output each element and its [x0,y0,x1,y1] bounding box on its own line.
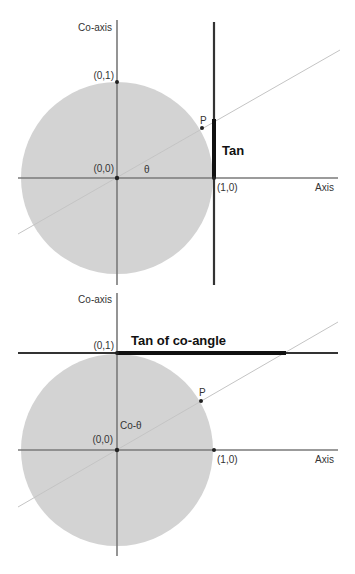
point-p [200,126,204,130]
point-0-1-label: (0,1) [93,70,114,81]
point-0-1 [115,80,119,84]
point-p [199,399,203,403]
origin-label: (0,0) [93,163,114,174]
angle-label: θ [144,164,150,175]
point-0-1-label: (0,1) [93,340,114,351]
axis-label: Axis [315,182,334,193]
tan-diagram: Co-axis (0,1) (0,0) θ P Tan (1,0) Axis [18,20,340,285]
point-p-label: P [200,115,207,126]
point-p-label: P [199,387,206,398]
diagram-canvas: Co-axis (0,1) (0,0) θ P Tan (1,0) Axis C… [0,0,355,574]
cotan-label: Tan of co-angle [131,333,226,348]
point-origin [115,176,119,180]
point-origin [115,448,119,452]
coaxis-label: Co-axis [78,294,112,305]
axis-label: Axis [315,454,334,465]
angle-label: Co-θ [120,420,142,431]
cotan-diagram: Co-axis (0,1) Tan of co-angle P Co-θ (0,… [18,293,338,556]
coaxis-label: Co-axis [78,22,112,33]
origin-label: (0,0) [92,434,113,445]
point-0-1 [115,351,119,355]
point-1-0-label: (1,0) [217,182,238,193]
point-1-0 [212,448,216,452]
tan-label: Tan [222,143,244,158]
point-1-0 [212,176,216,180]
point-1-0-label: (1,0) [217,454,238,465]
